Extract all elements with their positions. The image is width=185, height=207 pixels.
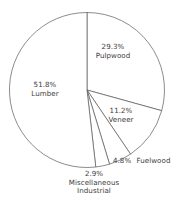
slice-label-miscellaneous-industrial: 2.9% Miscellaneous Industrial [57,170,131,196]
slice-name-miscellaneous-industrial-line2: Industrial [57,187,131,196]
slice-percent-fuelwood: 4.8% [113,156,131,165]
slice-name-pulpwood: Pulpwood [86,52,140,61]
slice-label-fuelwood: 4.8% Fuelwood [113,157,185,166]
slice-name-veneer: Veneer [98,116,144,125]
slice-name-lumber: Lumber [20,90,70,99]
slice-label-lumber: 51.8% Lumber [20,81,70,98]
slice-name-fuelwood: Fuelwood [137,156,171,165]
slice-label-pulpwood: 29.3% Pulpwood [86,43,140,60]
slice-label-veneer: 11.2% Veneer [98,107,144,124]
pie-chart: 29.3% Pulpwood 51.8% Lumber 11.2% Veneer… [0,0,185,207]
